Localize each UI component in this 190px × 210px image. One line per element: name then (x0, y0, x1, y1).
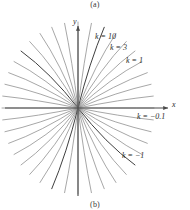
figure-container: (a) y x k = 10 k = 3 k = 1 k = −0.1 k = … (0, 0, 190, 210)
curve-label-k-10: k = 10 (95, 33, 116, 41)
curve-ray (5, 108, 78, 132)
curve-ray (78, 108, 91, 193)
curve-ray (78, 23, 91, 108)
curve-label-k-3: k = 3 (110, 44, 127, 52)
caption-below: (b) (0, 200, 190, 209)
curve-label-k-1: k = 1 (126, 57, 143, 65)
curve-ray (78, 84, 151, 108)
curve-ray (65, 23, 78, 108)
y-axis-label: y (73, 18, 77, 26)
curve-ray (5, 84, 78, 108)
curve-label-k-negative-0-1: k = −0.1 (137, 113, 165, 121)
curve-label-k-negative-1: k = −1 (122, 152, 144, 160)
x-axis-arrowhead (163, 106, 168, 110)
curve-ray (65, 108, 78, 193)
y-axis-arrowhead (76, 26, 80, 31)
x-axis-label: x (172, 101, 176, 109)
